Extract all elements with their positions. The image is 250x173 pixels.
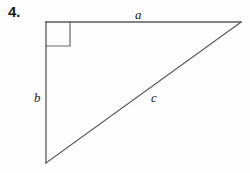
figure-container: 4. a b c [0, 0, 250, 173]
right-angle-marker-icon [46, 22, 70, 46]
side-label-b: b [34, 91, 41, 104]
right-triangle-drawing [0, 0, 250, 173]
side-label-a: a [135, 8, 142, 21]
triangle-side-c-line [46, 22, 241, 163]
item-number: 4. [8, 4, 21, 19]
side-label-c: c [151, 91, 157, 104]
